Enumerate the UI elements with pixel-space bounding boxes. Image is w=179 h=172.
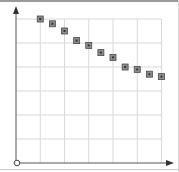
marker-center-dot: [148, 73, 150, 75]
marker-center-dot: [161, 76, 163, 78]
marker-center-dot: [136, 68, 138, 70]
data-point: [110, 54, 116, 60]
data-point: [159, 74, 165, 80]
marker-center-dot: [124, 66, 126, 68]
origin-marker-icon: [14, 160, 20, 166]
data-point: [122, 64, 128, 70]
data-point: [62, 28, 68, 34]
grid-lines: [16, 19, 162, 163]
marker-center-dot: [39, 18, 41, 20]
data-point: [74, 38, 80, 44]
marker-center-dot: [76, 40, 78, 42]
data-point: [37, 16, 43, 22]
data-point: [134, 66, 140, 72]
data-point: [98, 50, 104, 56]
scatter-plot: [0, 0, 179, 172]
marker-center-dot: [112, 56, 114, 58]
axes: [13, 6, 174, 166]
data-point: [146, 71, 152, 77]
marker-center-dot: [100, 52, 102, 54]
marker-center-dot: [88, 44, 90, 46]
data-points: [37, 16, 164, 80]
x-axis-arrow-icon: [166, 160, 174, 166]
data-point: [49, 21, 55, 27]
data-point: [86, 42, 92, 48]
marker-center-dot: [51, 23, 53, 25]
y-axis-arrow-icon: [13, 6, 19, 14]
marker-center-dot: [64, 30, 66, 32]
